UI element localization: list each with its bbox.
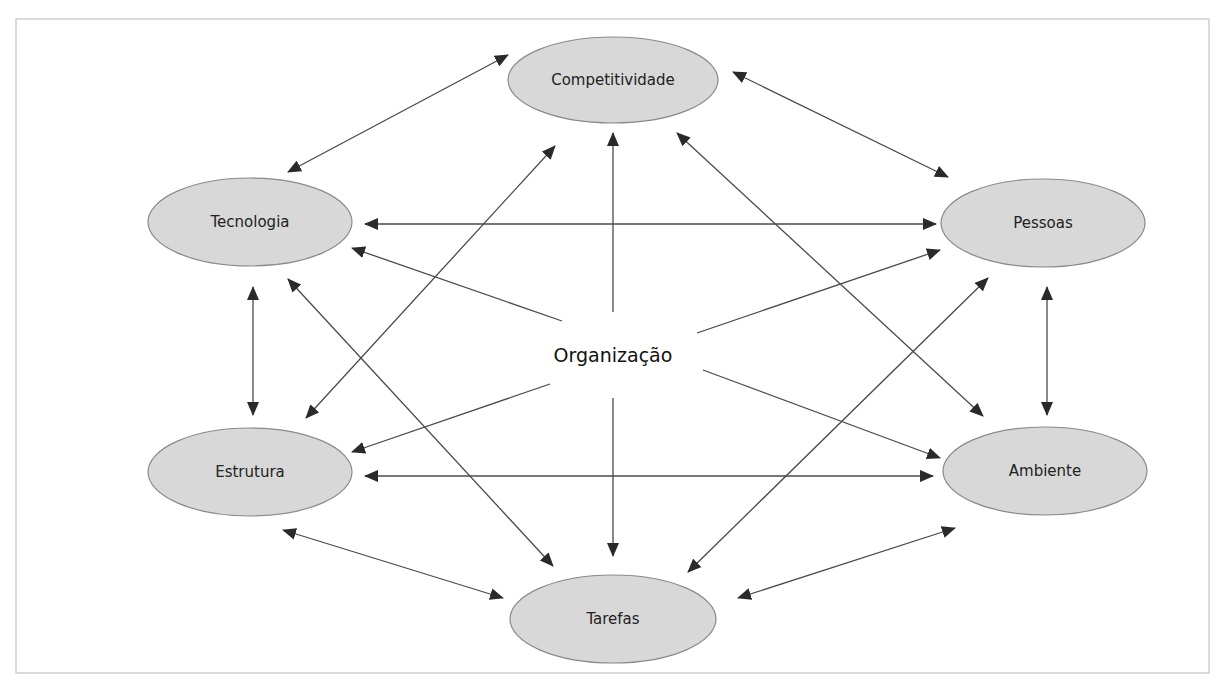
arrow-estrutura-tarefas (283, 530, 503, 598)
node-competitividade: Competitividade (508, 37, 718, 123)
arrow-competitividade-pessoas (733, 72, 948, 177)
node-tecnologia: Tecnologia (148, 178, 352, 266)
node-label-pessoas: Pessoas (1013, 214, 1073, 232)
node-estrutura: Estrutura (148, 428, 352, 516)
arrow-competitividade-tecnologia (288, 55, 508, 172)
arrow-competitividade-ambiente (677, 133, 983, 416)
arrow-tecnologia-tarefas (288, 279, 553, 566)
arrow-organizacao-pessoas (697, 250, 940, 333)
node-label-competitividade: Competitividade (551, 71, 675, 89)
node-label-tecnologia: Tecnologia (210, 213, 290, 231)
edge-layer (253, 55, 1047, 598)
node-label-estrutura: Estrutura (215, 463, 285, 481)
arrow-pessoas-tarefas (688, 278, 988, 572)
arrow-organizacao-tecnologia (352, 248, 562, 321)
arrow-organizacao-ambiente (703, 370, 940, 458)
node-ambiente: Ambiente (943, 427, 1147, 515)
center-label-organizacao: Organização (554, 344, 673, 366)
node-label-ambiente: Ambiente (1009, 462, 1081, 480)
node-pessoas: Pessoas (941, 179, 1145, 267)
node-tarefas: Tarefas (510, 575, 716, 663)
arrow-estrutura-competitividade (306, 146, 555, 418)
organization-relationship-diagram: CompetitividadeTecnologiaPessoasEstrutur… (0, 0, 1228, 686)
node-label-tarefas: Tarefas (585, 610, 639, 628)
arrow-ambiente-tarefas (738, 528, 955, 598)
arrow-organizacao-estrutura (352, 384, 550, 452)
